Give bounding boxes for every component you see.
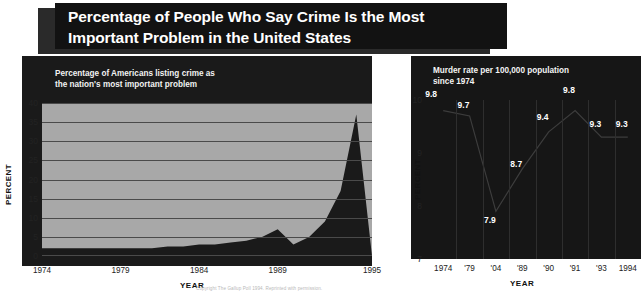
right-chart-data-label: 9.4	[537, 112, 549, 122]
right-chart-x-tick: 1994	[611, 264, 641, 273]
right-chart-data-label: 9.3	[589, 119, 601, 129]
right-chart-gridline	[509, 100, 510, 259]
right-chart-y-tick: 10	[404, 95, 422, 105]
right-chart-data-label: 9.3	[616, 119, 628, 129]
right-chart-gridline	[536, 100, 537, 259]
left-chart-caption-line-2: the nation's most important problem	[55, 79, 355, 90]
left-chart-y-tick: 5	[22, 232, 38, 242]
left-chart-caption-line-1: Percentage of Americans listing crime as	[55, 68, 355, 79]
left-chart-y-tick: 30	[22, 136, 38, 146]
left-chart-y-tick: 10	[22, 213, 38, 223]
left-chart-gridline	[42, 237, 372, 238]
left-chart-y-tick: 20	[22, 175, 38, 185]
left-chart-y-tick: 35	[22, 117, 38, 127]
page-title-line-1: Percentage of People Who Say Crime Is th…	[55, 3, 507, 27]
left-chart-gridline	[42, 141, 372, 142]
left-chart-y-tick: 15	[22, 194, 38, 204]
left-chart-gridline	[42, 180, 372, 181]
left-chart-x-tick: 1979	[101, 266, 141, 275]
left-chart-x-tick: 1974	[22, 266, 62, 275]
left-chart-gridline	[42, 218, 372, 219]
page-title: Percentage of People Who Say Crime Is th…	[55, 3, 507, 49]
left-chart-x-tick: 1995	[352, 266, 392, 275]
right-chart-caption-line-2: since 1974	[433, 76, 641, 87]
left-chart-gridline	[42, 160, 372, 161]
left-chart-x-tick: 1989	[258, 266, 298, 275]
left-chart-x-tick: 1984	[179, 266, 219, 275]
right-chart-caption: Murder rate per 100,000 population since…	[433, 65, 641, 87]
left-chart-gridline	[42, 122, 372, 123]
left-chart-y-tick: 0	[22, 251, 38, 261]
left-chart-plot-area	[42, 103, 372, 256]
left-chart-y-axis-label: PERCENT	[4, 160, 13, 210]
left-chart-y-tick: 40	[22, 98, 38, 108]
right-chart-y-tick: 7	[404, 254, 422, 264]
right-chart-y-axis-label: PERCENT	[413, 155, 422, 205]
right-chart-data-label: 8.7	[510, 159, 522, 169]
footer-credit-note: Copyright The Gallup Poll 1994. Reprinte…	[196, 286, 526, 291]
right-chart-caption-line-1: Murder rate per 100,000 population	[433, 65, 641, 76]
left-chart-gridline	[42, 103, 372, 104]
left-chart-gridline	[42, 255, 372, 256]
right-chart-data-label: 9.8	[563, 85, 575, 95]
right-chart-gridline	[483, 100, 484, 259]
page-title-line-2: Important Problem in the United States	[55, 27, 507, 48]
right-chart-gridline	[456, 100, 457, 259]
right-chart-data-label: 9.7	[458, 100, 470, 110]
right-chart-plot-area	[430, 100, 641, 259]
right-chart-data-label: 9.8	[425, 89, 437, 99]
right-chart-gridline	[562, 100, 563, 259]
left-chart-gridline	[42, 199, 372, 200]
right-chart-data-label: 7.9	[484, 215, 496, 225]
left-chart-caption: Percentage of Americans listing crime as…	[55, 68, 355, 90]
left-chart-y-tick: 25	[22, 155, 38, 165]
